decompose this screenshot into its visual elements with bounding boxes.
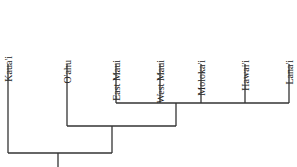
cladogram: Kaua'i O'ahu East Maui West Maui Moloka'… [0,0,297,167]
